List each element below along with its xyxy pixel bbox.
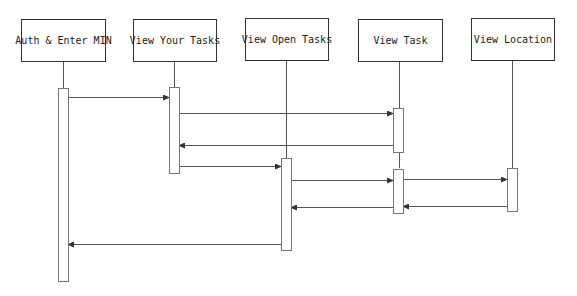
activation-bar: [282, 159, 292, 251]
participant-view-location: View Location: [471, 18, 555, 61]
participant-label: View Task: [373, 35, 427, 46]
activation-bar: [394, 170, 404, 214]
participant-open-tasks: View Open Tasks: [245, 18, 329, 61]
lifelines: [64, 61, 513, 168]
activation-bar: [59, 89, 69, 282]
activation-bars: [59, 88, 518, 282]
activation-bar: [170, 88, 180, 174]
participant-your-tasks: View Your Tasks: [133, 19, 217, 62]
participant-label: View Open Tasks: [242, 34, 332, 45]
participant-label: Auth & Enter MIN: [15, 35, 111, 46]
activation-bar: [508, 169, 518, 212]
sequence-diagram: Auth & Enter MINView Your TasksView Open…: [0, 0, 577, 296]
participant-label: View Location: [474, 34, 552, 45]
participant-view-task: View Task: [358, 19, 443, 62]
participant-label: View Your Tasks: [130, 35, 220, 46]
activation-bar: [394, 109, 404, 153]
participant-auth: Auth & Enter MIN: [21, 19, 106, 62]
